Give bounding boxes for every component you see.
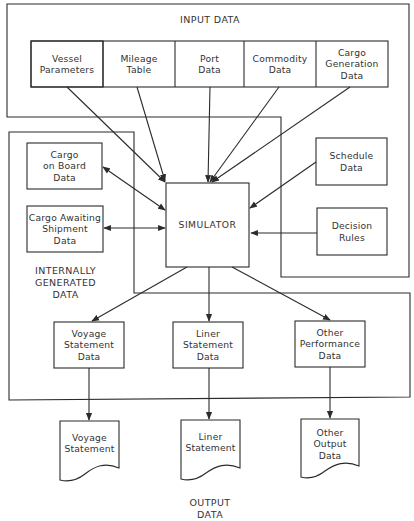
label-simulator: SIMULATOR bbox=[166, 183, 249, 267]
label-voyage-statement-data: Voyage Statement Data bbox=[54, 322, 124, 368]
label-cargo-generation-data: Cargo Generation Data bbox=[316, 41, 388, 87]
internal-data-title: INTERNALLY GENERATED DATA bbox=[18, 265, 113, 301]
label-commodity-data: Commodity Data bbox=[244, 41, 316, 87]
label-vessel-parameters: Vessel Parameters bbox=[31, 41, 103, 87]
label-decision-rules: Decision Rules bbox=[317, 208, 387, 255]
label-other-performance-data: Other Performance Data bbox=[295, 321, 365, 367]
label-voyage-statement: Voyage Statement bbox=[60, 428, 119, 458]
output-data-title: OUTPUT DATA bbox=[160, 497, 260, 521]
label-other-output-data: Other Output Data bbox=[301, 425, 359, 463]
label-liner-statement-data: Liner Statement Data bbox=[173, 322, 243, 368]
input-data-title: INPUT DATA bbox=[150, 14, 270, 26]
label-schedule-data: Schedule Data bbox=[316, 138, 387, 185]
label-cargo-awaiting: Cargo Awaiting Shipment Data bbox=[27, 206, 103, 252]
label-liner-statement: Liner Statement bbox=[181, 427, 240, 457]
label-port-data: Port Data bbox=[175, 41, 244, 87]
label-cargo-on-board: Cargo on Board Data bbox=[27, 143, 102, 189]
label-mileage-table: Mileage Table bbox=[103, 41, 175, 87]
